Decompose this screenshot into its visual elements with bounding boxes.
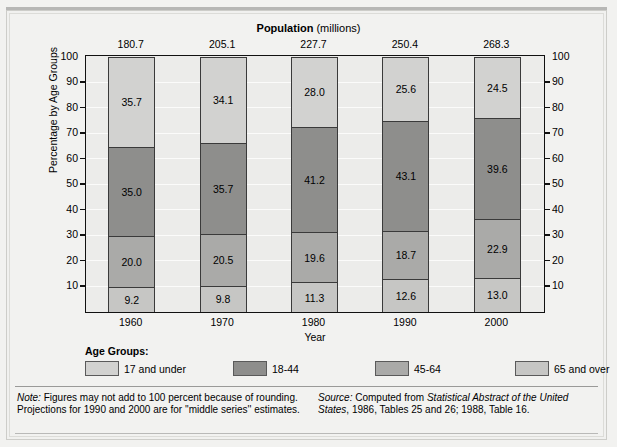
bar-segment-value: 12.6 (396, 291, 416, 302)
y-tickmark (545, 132, 550, 134)
y-tickmark (545, 81, 550, 83)
bar-segment: 12.6 (383, 280, 428, 312)
bar-2000[interactable]: 24.539.622.913.0 (474, 57, 521, 312)
plot-area: 35.735.020.09.234.135.720.59.828.041.219… (85, 55, 545, 313)
bar-1990[interactable]: 25.643.118.712.6 (382, 57, 429, 312)
legend-label: 45-64 (414, 363, 441, 375)
y-tick-left: 60 (52, 152, 78, 164)
legend-label: 65 and over (554, 363, 609, 375)
bar-segment-value: 18.7 (396, 250, 416, 261)
legend-item[interactable]: 65 and over (515, 360, 609, 377)
bar-segment-value: 39.6 (487, 164, 507, 175)
y-tickmark (80, 234, 85, 236)
bar-segment-value: 9.8 (216, 294, 231, 305)
population-value: 250.4 (359, 38, 451, 50)
bar-segment: 41.2 (292, 128, 337, 233)
bar-segment-value: 9.2 (124, 295, 139, 306)
legend-swatch (85, 361, 119, 376)
y-tick-left: 40 (52, 203, 78, 215)
legend: 17 and under18-4445-6465 and over (85, 360, 555, 380)
y-tickmark (545, 209, 550, 211)
legend-item[interactable]: 18-44 (233, 360, 299, 377)
figure-panel: Population (millions) 180.7205.1227.7250… (0, 0, 617, 447)
bar-segment-value: 25.6 (396, 84, 416, 95)
legend-item[interactable]: 45-64 (375, 360, 441, 377)
y-tickmark (545, 234, 550, 236)
bar-segment-value: 24.5 (487, 83, 507, 94)
bar-segment: 11.3 (292, 283, 337, 312)
bar-segment-value: 22.9 (487, 244, 507, 255)
population-value: 205.1 (176, 38, 268, 50)
y-tick-right: 30 (552, 228, 578, 240)
bar-segment-value: 35.0 (121, 187, 141, 198)
source-text: Source: Computed from Statistical Abstra… (318, 392, 600, 417)
y-tick-right: 90 (552, 75, 578, 87)
population-value: 268.3 (450, 38, 542, 50)
x-axis-label: Year (85, 331, 545, 343)
y-tick-right: 60 (552, 152, 578, 164)
bar-1970[interactable]: 34.135.720.59.8 (200, 57, 247, 312)
bar-segment-value: 41.2 (304, 175, 324, 186)
bar-segment-value: 20.5 (213, 255, 233, 266)
bar-segment-value: 28.0 (304, 87, 324, 98)
note-text: Note: Figures may not add to 100 percent… (17, 392, 309, 417)
y-tick-left: 20 (52, 254, 78, 266)
y-tickmark (545, 285, 550, 287)
y-tick-left: 70 (52, 126, 78, 138)
y-tick-left: 50 (52, 177, 78, 189)
y-tickmark (545, 158, 550, 160)
y-tick-right: 70 (552, 126, 578, 138)
bar-segment-value: 11.3 (305, 293, 325, 304)
population-value: 227.7 (268, 38, 360, 50)
bar-segment-value: 34.1 (213, 95, 233, 106)
y-tick-right: 20 (552, 254, 578, 266)
y-tick-right: 50 (552, 177, 578, 189)
bar-segment: 22.9 (475, 220, 520, 278)
bar-segment: 20.0 (109, 237, 154, 288)
y-tick-right: 10 (552, 279, 578, 291)
x-tick-2000: 2000 (450, 316, 542, 328)
bar-segment-value: 20.0 (121, 257, 141, 268)
bar-segment: 13.0 (475, 279, 520, 312)
footer-bottom-divider (15, 433, 598, 434)
x-tick-1970: 1970 (176, 316, 268, 328)
bar-segment: 18.7 (383, 232, 428, 280)
bar-segment: 28.0 (292, 57, 337, 128)
y-tick-left: 90 (52, 75, 78, 87)
y-tick-left: 10 (52, 279, 78, 291)
legend-label: 18-44 (272, 363, 299, 375)
x-tick-1960: 1960 (85, 316, 177, 328)
bar-1960[interactable]: 35.735.020.09.2 (108, 57, 155, 312)
note-label: Note: (17, 392, 41, 403)
y-tickmark (80, 285, 85, 287)
y-tickmark (80, 158, 85, 160)
bar-segment: 35.7 (201, 144, 246, 235)
legend-title: Age Groups: (85, 345, 149, 357)
legend-item[interactable]: 17 and under (85, 360, 186, 377)
x-tick-1990: 1990 (359, 316, 451, 328)
y-tickmark (545, 107, 550, 109)
y-tickmark (545, 183, 550, 185)
y-tickmark (545, 260, 550, 262)
population-title-units: (millions) (313, 22, 360, 34)
legend-swatch (233, 361, 267, 376)
bar-segment-value: 43.1 (396, 171, 416, 182)
legend-swatch (515, 361, 549, 376)
x-tick-1980: 1980 (268, 316, 360, 328)
y-tick-left: 30 (52, 228, 78, 240)
bar-segment: 35.0 (109, 148, 154, 237)
y-tickmark (80, 107, 85, 109)
y-tick-right: 40 (552, 203, 578, 215)
y-tickmark (80, 209, 85, 211)
y-tickmark (80, 183, 85, 185)
bar-segment-value: 19.6 (304, 253, 324, 264)
y-tick-left: 100 (52, 50, 78, 62)
bar-segment: 35.7 (109, 57, 154, 148)
bar-segment: 39.6 (475, 119, 520, 220)
source-label: Source: (318, 392, 352, 403)
bar-segment: 19.6 (292, 233, 337, 283)
y-tick-right: 100 (552, 50, 578, 62)
bar-1980[interactable]: 28.041.219.611.3 (291, 57, 338, 312)
legend-swatch (375, 361, 409, 376)
bar-segment: 43.1 (383, 122, 428, 232)
